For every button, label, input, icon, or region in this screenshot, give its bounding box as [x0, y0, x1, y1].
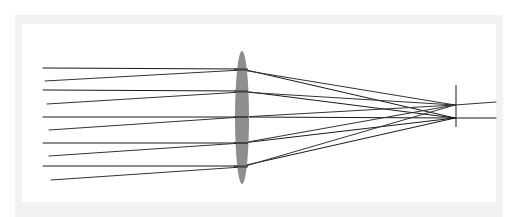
diagram-canvas	[22, 24, 496, 202]
lens-ray-diagram	[0, 0, 511, 217]
